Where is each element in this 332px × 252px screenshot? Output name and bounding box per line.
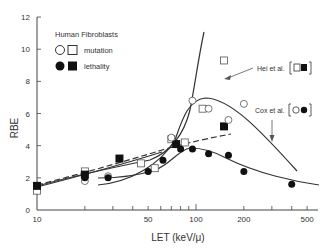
annotation-hei: Hei et al. — [224, 62, 311, 80]
legend-mutation-label: mutation — [84, 46, 113, 55]
filled-circle-marker — [105, 174, 112, 181]
legend-lethality-label: lethality — [84, 62, 110, 71]
filled-circle-marker — [240, 168, 247, 175]
x-tick-label: 100 — [189, 215, 203, 224]
open-circle-marker — [189, 97, 196, 104]
hei-pointer-arrow — [228, 68, 253, 78]
filled-circle-marker — [205, 150, 212, 157]
open-circle-marker — [205, 105, 212, 112]
rbe-vs-let-chart: 024681012 RBE 1050100200500 LET (keV/μ) … — [0, 0, 332, 252]
legend: Human Fibroblasts mutation lethality — [55, 30, 118, 71]
open-circle-marker — [240, 100, 247, 107]
filled-circle-marker — [81, 174, 88, 181]
hei-lethality-curve-solid — [37, 152, 162, 187]
open-square-marker — [151, 165, 158, 172]
x-tick-label: 10 — [33, 215, 42, 224]
x-tick-label: 200 — [237, 215, 251, 224]
legend-open-circle-icon — [56, 46, 65, 55]
filled-circle-marker — [145, 168, 152, 175]
open-circle-marker — [168, 134, 175, 141]
open-circle-marker — [225, 116, 232, 123]
bracket-right-icon — [309, 104, 311, 116]
annotation-filled-circle-icon — [301, 107, 307, 113]
filled-circle-marker — [177, 145, 184, 152]
x-tick-label: 500 — [300, 215, 314, 224]
annotation-cox-label: Cox et al. — [255, 107, 285, 114]
hei-arrowhead-icon — [224, 75, 231, 80]
filled-square-marker — [115, 155, 123, 163]
legend-open-square-icon — [68, 46, 77, 55]
legend-filled-square-icon — [68, 62, 77, 71]
bracket-left-icon — [290, 62, 292, 74]
hei-lethality-curve-dashed — [37, 134, 231, 185]
filled-circle-marker — [225, 152, 232, 159]
x-axis-label: LET (keV/μ) — [151, 232, 204, 243]
open-square-marker — [220, 57, 227, 64]
x-tick-label: 50 — [144, 215, 153, 224]
y-tick-label: 4 — [26, 142, 31, 151]
annotation-filled-square-icon — [301, 64, 307, 71]
y-tick-label: 10 — [21, 45, 30, 54]
annotation-hei-label: Hei et al. — [257, 65, 285, 72]
bracket-right-icon — [309, 62, 311, 74]
y-tick-label: 6 — [26, 110, 31, 119]
cox-arrowhead-icon — [270, 135, 275, 142]
open-square-marker — [181, 139, 188, 146]
y-axis-label: RBE — [9, 117, 20, 138]
legend-filled-circle-icon — [56, 62, 65, 71]
open-square-marker — [137, 160, 144, 167]
filled-circle-marker — [159, 157, 166, 164]
y-tick-label: 0 — [26, 206, 31, 215]
annotation-open-square-icon — [294, 64, 300, 71]
filled-square-marker — [33, 182, 41, 190]
data-points — [33, 57, 295, 194]
y-tick-label: 12 — [21, 13, 30, 22]
y-tick-label: 2 — [26, 174, 31, 183]
bracket-left-icon — [289, 104, 291, 116]
x-axis: 1050100200500 LET (keV/μ) — [33, 204, 318, 243]
filled-square-marker — [220, 122, 228, 130]
annotation-open-circle-icon — [293, 107, 299, 113]
legend-title: Human Fibroblasts — [55, 30, 118, 39]
annotation-cox: Cox et al. — [255, 104, 311, 142]
filled-circle-marker — [189, 145, 196, 152]
filled-circle-marker — [288, 181, 295, 188]
y-tick-label: 8 — [26, 77, 31, 86]
